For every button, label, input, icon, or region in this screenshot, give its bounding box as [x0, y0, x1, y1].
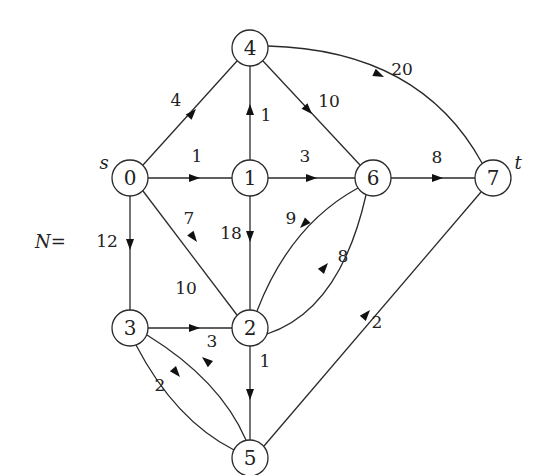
capacity-4-6: 10 [318, 91, 340, 111]
arrow-1-4-icon [246, 104, 254, 115]
capacity-6-2: 9 [286, 208, 297, 228]
node-1: 1 [232, 160, 268, 196]
capacity-5-3: 3 [207, 331, 218, 351]
node-6-label: 6 [367, 166, 380, 190]
node-1-label: 1 [244, 166, 257, 190]
node-3-label: 3 [124, 316, 137, 340]
node-0-label: 0 [124, 166, 137, 190]
capacity-0-1: 1 [192, 146, 203, 166]
node-7-label: 7 [487, 166, 500, 190]
arrow-3-2-icon [189, 324, 200, 332]
capacity-0-2: 7 [184, 208, 195, 228]
capacity-1-4: 1 [261, 105, 272, 125]
node-5: 5 [232, 440, 268, 475]
capacity-6-7: 8 [432, 147, 443, 167]
node-6: 6 [355, 160, 391, 196]
arrow-3-5-icon [170, 366, 183, 380]
arrow-6-7-icon [432, 174, 443, 182]
arrow-6-2-icon [297, 217, 310, 230]
arrow-0-1-icon [189, 174, 200, 182]
capacity-2-6: 8 [338, 246, 349, 266]
capacity-2-5: 1 [260, 351, 271, 371]
capacity-1-2: 18 [220, 223, 242, 243]
capacity-1-6: 3 [300, 146, 311, 166]
flow-network-diagram: 4 1 7 12 1 3 18 10 20 8 9 8 10 1 3 2 2 0… [0, 0, 552, 475]
capacity-5-7: 2 [372, 312, 383, 332]
node-2: 2 [232, 310, 268, 346]
edge-3-5 [136, 345, 234, 450]
edge-2-6 [267, 195, 366, 334]
arrow-2-5-icon [246, 389, 254, 400]
capacity-0-3: 12 [96, 231, 118, 251]
arrow-1-6-icon [306, 174, 317, 182]
arrow-5-3-icon [199, 354, 213, 367]
node-7: 7 [475, 160, 511, 196]
arrow-0-4-icon [186, 106, 199, 120]
node-0: 0 [112, 160, 148, 196]
node-4-label: 4 [244, 36, 257, 60]
capacity-0-4: 4 [171, 90, 182, 110]
node-4: 4 [232, 30, 268, 66]
capacity-3-2: 10 [175, 278, 197, 298]
source-label: s [99, 152, 108, 173]
arrowheads [126, 69, 443, 400]
arrow-0-2-icon [187, 231, 200, 245]
capacity-labels: 4 1 7 12 1 3 18 10 20 8 9 8 10 1 3 2 2 [96, 59, 442, 395]
node-3: 3 [112, 310, 148, 346]
sink-label: t [514, 152, 522, 173]
network-label: N= [34, 231, 66, 252]
node-2-label: 2 [244, 316, 257, 340]
arrow-1-2-icon [246, 231, 254, 242]
capacity-4-7: 20 [391, 59, 413, 79]
capacity-3-5: 2 [155, 375, 166, 395]
arrow-0-3-icon [126, 239, 134, 250]
arrow-2-6-icon [318, 260, 331, 274]
node-5-label: 5 [244, 446, 257, 470]
